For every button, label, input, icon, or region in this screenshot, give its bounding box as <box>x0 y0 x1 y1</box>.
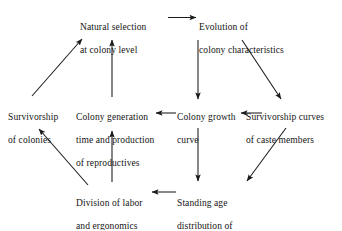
node-line: Evolution of <box>199 22 284 34</box>
node-line: Standing age <box>177 198 234 210</box>
node-line: curve <box>177 135 236 147</box>
node-line: distribution of <box>177 221 234 231</box>
node-line: Survivorship curves <box>246 112 324 124</box>
node-evolution-of-colony-characteristics: Evolution of colony characteristics <box>199 10 284 68</box>
node-line: of caste members <box>246 135 324 147</box>
node-line: colony characteristics <box>199 45 284 57</box>
node-colony-generation-time-and-production-of-reproductives: Colony generation time and production of… <box>76 100 154 181</box>
node-line: of colonies <box>8 135 58 147</box>
diagram-canvas: Natural selection at colony level Evolut… <box>0 0 342 230</box>
node-line: Colony growth <box>177 112 236 124</box>
node-line: of reproductives <box>76 158 154 170</box>
node-survivorship-curves-of-caste-members: Survivorship curves of caste members <box>246 100 324 158</box>
node-line: Natural selection <box>80 22 146 34</box>
node-natural-selection-at-colony-level: Natural selection at colony level <box>80 10 146 68</box>
node-line: at colony level <box>80 45 146 57</box>
node-line: Survivorship <box>8 112 58 124</box>
arrow-survivorship-colonies-to-natural-selection <box>32 39 82 96</box>
node-line: Division of labor <box>76 198 143 210</box>
node-line: and ergonomics <box>76 221 143 231</box>
node-standing-age-distribution-of-caste-members: Standing age distribution of caste membe… <box>177 186 234 230</box>
node-division-of-labor-and-ergonomics: Division of labor and ergonomics <box>76 186 143 230</box>
node-line: Colony generation <box>76 112 154 124</box>
node-survivorship-of-colonies: Survivorship of colonies <box>8 100 58 158</box>
node-line: time and production <box>76 135 154 147</box>
node-colony-growth-curve: Colony growth curve <box>177 100 236 158</box>
